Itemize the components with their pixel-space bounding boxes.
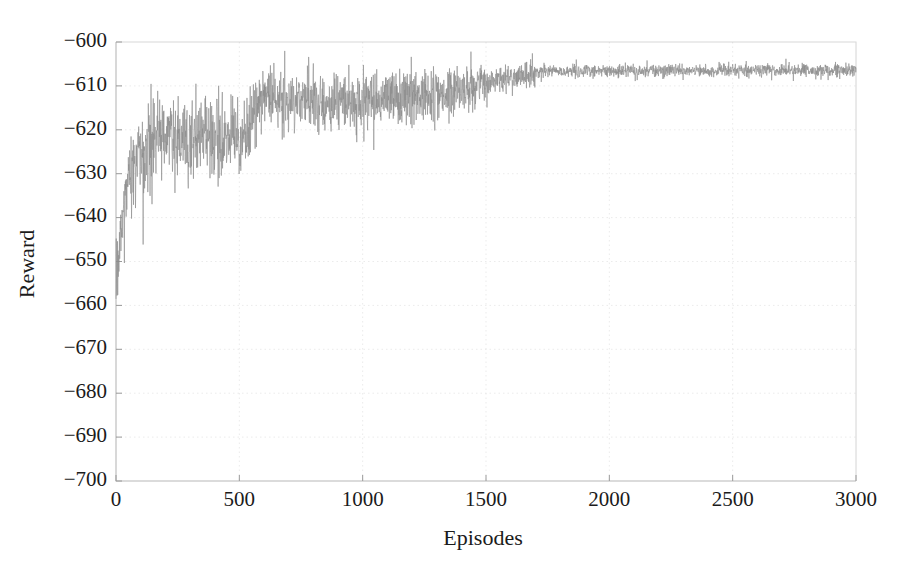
y-tick-label: −670 [64, 335, 107, 359]
y-tick-label: −650 [64, 247, 107, 271]
chart-canvas: −700−690−680−670−660−650−640−630−620−610… [0, 0, 907, 575]
y-tick-label: −640 [64, 203, 107, 227]
x-tick-label: 2000 [588, 487, 630, 511]
y-tick-label: −660 [64, 291, 107, 315]
reward-vs-episodes-figure: −700−690−680−670−660−650−640−630−620−610… [0, 0, 907, 575]
x-tick-label: 1000 [342, 487, 384, 511]
x-tick-label: 500 [224, 487, 256, 511]
x-tick-label: 1500 [465, 487, 507, 511]
y-axis-title: Reward [14, 230, 39, 298]
x-axis-title: Episodes [443, 525, 522, 550]
y-tick-label: −630 [64, 160, 107, 184]
x-tick-label: 2500 [712, 487, 754, 511]
y-tick-label: −620 [64, 116, 107, 140]
y-tick-label: −610 [64, 72, 107, 96]
x-tick-label: 3000 [835, 487, 877, 511]
x-tick-label: 0 [111, 487, 122, 511]
y-tick-label: −690 [64, 423, 107, 447]
y-tick-label: −680 [64, 379, 107, 403]
y-tick-label: −600 [64, 28, 107, 52]
y-tick-label: −700 [64, 467, 107, 491]
